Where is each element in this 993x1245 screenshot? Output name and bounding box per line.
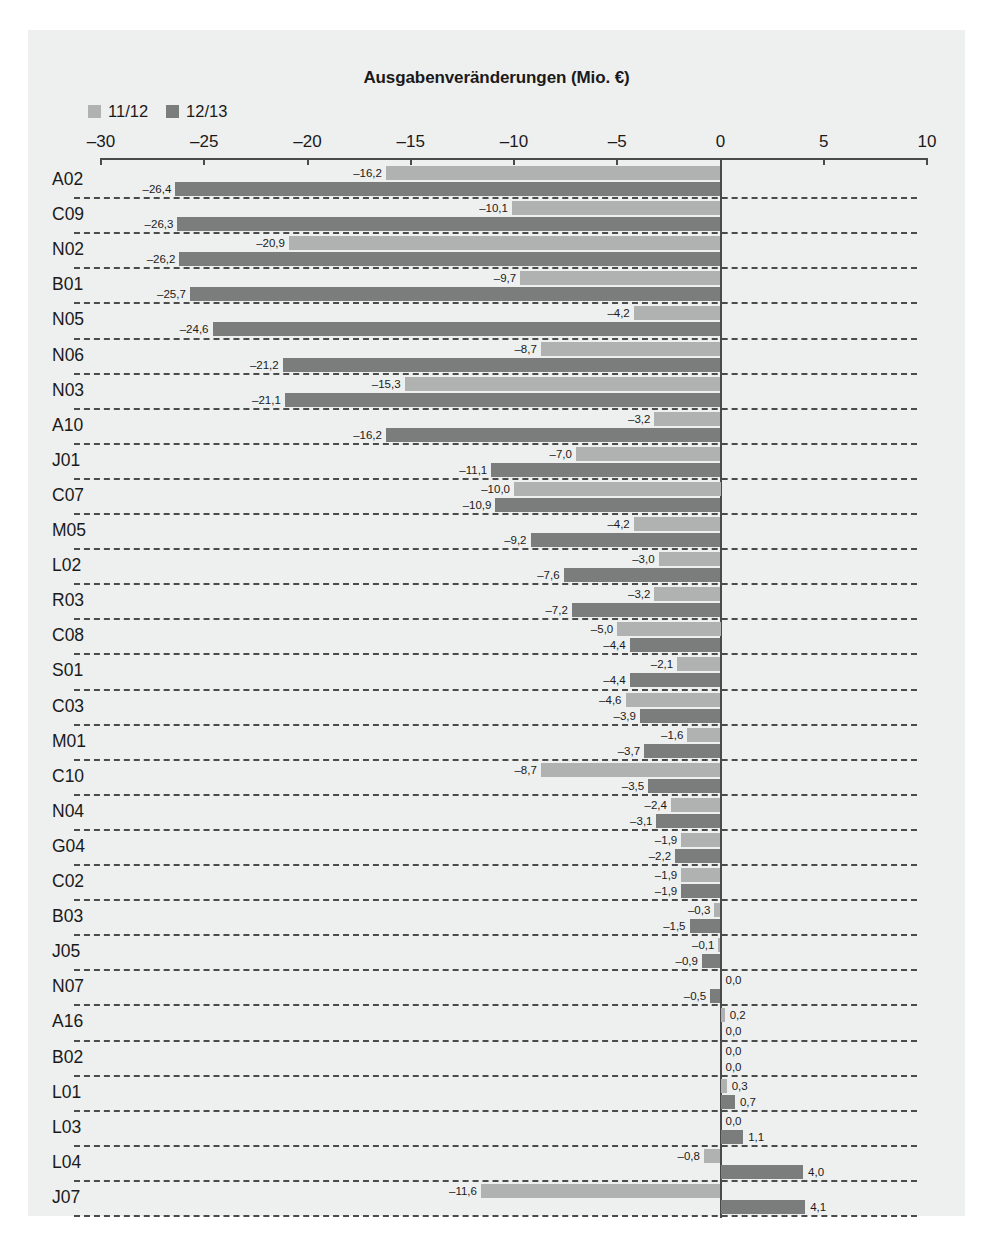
bar-C08-11-12	[617, 622, 720, 636]
x-axis-tick-label: –15	[397, 132, 425, 152]
x-axis-tick-label: –20	[293, 132, 321, 152]
bar-J01-11-12	[576, 447, 721, 461]
bar-value-S01-11-12: –2,1	[28, 657, 673, 671]
bar-N04-11-12	[671, 798, 721, 812]
bar-C03-12-13	[640, 709, 721, 723]
bar-value-J07-12-13: 4,1	[810, 1200, 826, 1214]
bar-L04-12-13	[721, 1165, 804, 1179]
bar-value-L02-11-12: –3,0	[28, 552, 655, 566]
bar-value-N04-11-12: –2,4	[28, 798, 667, 812]
bar-value-C03-12-13: –3,9	[28, 709, 636, 723]
bar-value-C07-12-13: –10,9	[28, 498, 491, 512]
x-axis-tick	[100, 158, 102, 165]
bar-C10-12-13	[648, 779, 720, 793]
row-separator	[74, 1215, 917, 1217]
bar-A02-11-12	[386, 166, 721, 180]
bar-J07-12-13	[721, 1200, 806, 1214]
row-separator	[74, 759, 917, 761]
bar-R03-12-13	[572, 603, 721, 617]
bar-value-R03-11-12: –3,2	[28, 587, 650, 601]
bar-C07-12-13	[495, 498, 720, 512]
bar-value-J07-11-12: –11,6	[28, 1184, 477, 1198]
bar-A10-11-12	[654, 412, 720, 426]
row-separator	[74, 513, 917, 515]
bar-value-B03-11-12: –0,3	[28, 903, 710, 917]
x-axis-tick	[307, 158, 309, 165]
bar-value-G04-12-13: –2,2	[28, 849, 671, 863]
bar-value-B01-12-13: –25,7	[28, 287, 186, 301]
category-label-B02: B02	[52, 1047, 83, 1068]
bar-value-C09-12-13: –26,3	[28, 217, 173, 231]
bar-S01-11-12	[677, 657, 720, 671]
bar-value-L04-11-12: –0,8	[28, 1149, 700, 1163]
bar-value-G04-11-12: –1,9	[28, 833, 677, 847]
bar-value-L02-12-13: –7,6	[28, 568, 560, 582]
x-axis-tick-label: –25	[190, 132, 218, 152]
bar-C09-12-13	[177, 217, 720, 231]
bar-value-A16-12-13: 0,0	[726, 1024, 742, 1038]
bar-value-C03-11-12: –4,6	[28, 693, 622, 707]
row-separator	[74, 583, 917, 585]
row-separator	[74, 1075, 917, 1077]
bar-G04-11-12	[681, 833, 720, 847]
bar-J05-12-13	[702, 954, 721, 968]
chart-panel: Ausgabenveränderungen (Mio. €) 11/1212/1…	[28, 30, 965, 1216]
row-separator	[74, 1145, 917, 1147]
bar-value-N04-12-13: –3,1	[28, 814, 652, 828]
bar-J07-11-12	[481, 1184, 721, 1198]
bar-C07-11-12	[514, 482, 721, 496]
row-separator	[74, 899, 917, 901]
bar-value-N02-11-12: –20,9	[28, 236, 285, 250]
bar-J05-11-12	[718, 938, 720, 952]
row-separator	[74, 689, 917, 691]
bar-value-A10-12-13: –16,2	[28, 428, 382, 442]
bar-value-R03-12-13: –7,2	[28, 603, 568, 617]
row-separator	[74, 267, 917, 269]
x-axis-tick	[203, 158, 205, 165]
plot-area: –30–25–20–15–10–50510A02–16,2–26,4C09–10…	[28, 30, 965, 1216]
bar-L04-11-12	[704, 1149, 721, 1163]
bar-N07-12-13	[710, 989, 720, 1003]
bar-B03-12-13	[690, 919, 721, 933]
row-separator	[74, 197, 917, 199]
bar-value-N07-11-12: 0,0	[726, 973, 742, 987]
row-separator	[74, 478, 917, 480]
bar-L02-11-12	[659, 552, 721, 566]
row-separator	[74, 408, 917, 410]
row-separator	[74, 548, 917, 550]
bar-value-N05-12-13: –24,6	[28, 322, 209, 336]
bar-value-C10-11-12: –8,7	[28, 763, 537, 777]
x-axis-tick-label: 0	[716, 132, 725, 152]
category-label-A16: A16	[52, 1011, 83, 1032]
row-separator	[74, 232, 917, 234]
bar-B01-11-12	[520, 271, 720, 285]
bar-value-N06-12-13: –21,2	[28, 358, 279, 372]
bar-A10-12-13	[386, 428, 721, 442]
bar-value-N02-12-13: –26,2	[28, 252, 175, 266]
row-separator	[74, 969, 917, 971]
x-axis-tick	[823, 158, 825, 165]
bar-value-N03-11-12: –15,3	[28, 377, 401, 391]
row-separator	[74, 443, 917, 445]
bar-M01-12-13	[644, 744, 720, 758]
bar-S01-12-13	[630, 673, 721, 687]
x-axis-tick-label: –10	[500, 132, 528, 152]
bar-value-C02-11-12: –1,9	[28, 868, 677, 882]
bar-A16-11-12	[721, 1008, 725, 1022]
bar-A02-12-13	[175, 182, 720, 196]
bar-N06-12-13	[283, 358, 721, 372]
row-separator	[74, 618, 917, 620]
bar-value-C02-12-13: –1,9	[28, 884, 677, 898]
bar-L03-12-13	[721, 1130, 744, 1144]
bar-value-A10-11-12: –3,2	[28, 412, 650, 426]
bar-value-C09-11-12: –10,1	[28, 201, 508, 215]
bar-C02-12-13	[681, 884, 720, 898]
bar-value-B03-12-13: –1,5	[28, 919, 686, 933]
x-axis-tick-label: –5	[608, 132, 627, 152]
bar-value-L01-11-12: 0,3	[732, 1079, 748, 1093]
bar-C09-11-12	[512, 201, 721, 215]
bar-B03-11-12	[714, 903, 720, 917]
bar-N04-12-13	[656, 814, 720, 828]
bar-C03-11-12	[626, 693, 721, 707]
bar-J01-12-13	[491, 463, 720, 477]
